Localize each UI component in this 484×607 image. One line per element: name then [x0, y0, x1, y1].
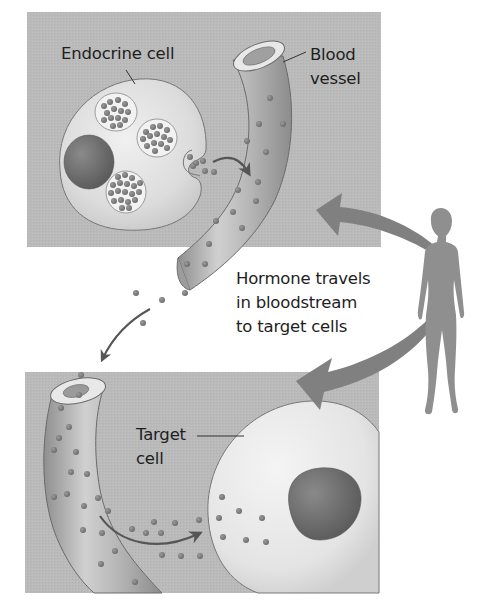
endocrine-cell-label: Endocrine cell: [61, 43, 174, 64]
secretory-vesicle: [106, 171, 146, 213]
secretory-vesicle: [95, 93, 137, 131]
target-cell-label-line2: cell: [136, 448, 164, 469]
travel-arrow-icon: [103, 309, 150, 358]
transit-caption-line3: to target cells: [236, 316, 347, 337]
bottom-panel: [25, 372, 379, 593]
secretory-vesicle: [137, 119, 177, 157]
target-cell-label-line1: Target: [136, 424, 186, 445]
blood-vessel-label-line2: vessel: [310, 68, 361, 89]
transit-caption-line2: in bloodstream: [236, 292, 357, 313]
endocrine-signaling-diagram: Endocrine cell Blood vessel Hormone trav…: [0, 0, 484, 607]
transit-caption-line1: Hormone travels: [236, 268, 370, 289]
bloodstream-transit: [103, 290, 188, 358]
blood-vessel-label-line1: Blood: [310, 44, 356, 65]
nucleus: [64, 135, 114, 189]
